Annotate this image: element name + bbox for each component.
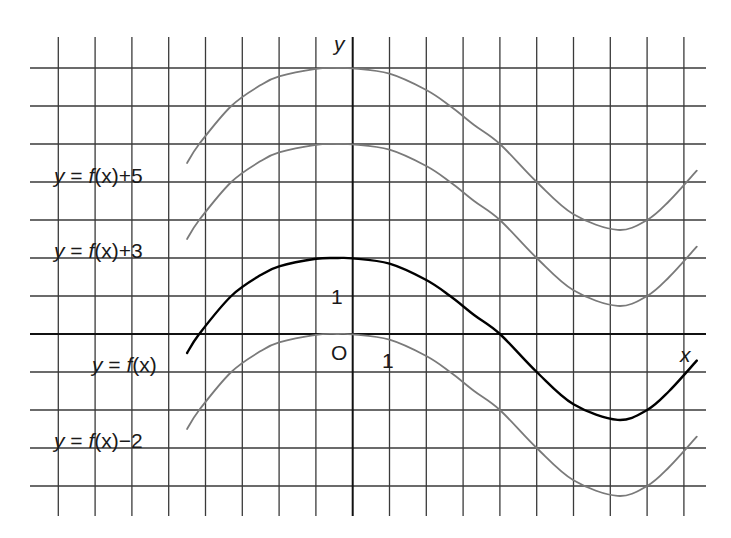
y-axis-label: y [332, 32, 346, 55]
series-label: y = f(x)+5 [52, 164, 143, 187]
series-label: y = f(x) [90, 353, 157, 376]
x-unit-tick-label: 1 [382, 349, 394, 372]
series-label-part: (x)+3 [94, 239, 142, 262]
curve-f-x [187, 258, 697, 420]
series-label-part: (x)+5 [94, 164, 142, 187]
origin-label: O [331, 341, 347, 364]
series-label-part: (x) [132, 353, 157, 376]
curve-f-x-shift-5 [187, 68, 697, 230]
series-label-part: (x)−2 [94, 429, 142, 452]
series-label-part: = [103, 353, 127, 376]
series-label: y = f(x)−2 [52, 429, 143, 452]
series-label-part: = [65, 164, 89, 187]
series-label-part: = [65, 239, 89, 262]
series-label: y = f(x)+3 [52, 239, 143, 262]
curve-f-x-shift-3 [187, 144, 697, 306]
series-labels: y = f(x)+5y = f(x)+3y = f(x)y = f(x)−2 [52, 164, 157, 452]
curve-f-x-shift-minus-2 [187, 334, 697, 496]
x-axis-label: x [679, 343, 692, 366]
graph-canvas: y x O 1 1 y = f(x)+5y = f(x)+3y = f(x)y … [0, 0, 731, 538]
labels: y x O 1 1 [331, 32, 692, 372]
curves [187, 68, 697, 496]
y-unit-tick-label: 1 [331, 285, 343, 308]
series-label-part: = [65, 429, 89, 452]
